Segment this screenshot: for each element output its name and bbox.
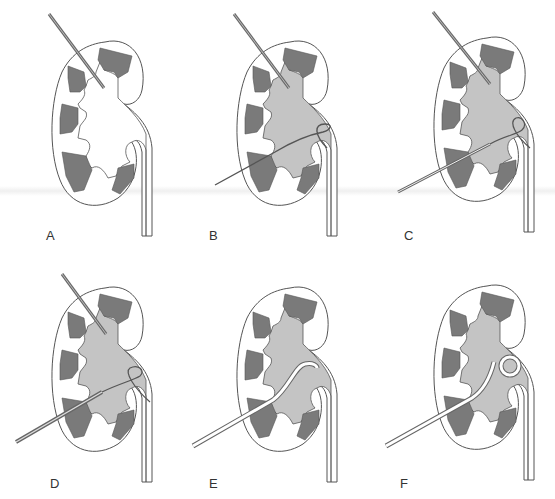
kidney-illustration (185, 0, 370, 249)
panel-label: A (46, 228, 55, 243)
panel-b: B (185, 0, 370, 249)
panel-label: D (50, 476, 59, 491)
kidney-illustration (370, 250, 555, 499)
panel-d: D (0, 250, 185, 499)
panel-label: B (209, 228, 218, 243)
panel-label: C (404, 228, 413, 243)
panel-label: E (209, 476, 218, 491)
kidney-illustration (185, 250, 370, 499)
kidney-illustration (0, 0, 185, 249)
panel-e: E (185, 250, 370, 499)
panel-label: F (400, 476, 408, 491)
panel-c: C (370, 0, 555, 249)
panel-f: F (370, 250, 555, 499)
kidney-illustration (0, 250, 185, 499)
panel-a: A (0, 0, 185, 249)
kidney-illustration (370, 0, 555, 249)
